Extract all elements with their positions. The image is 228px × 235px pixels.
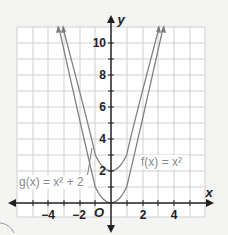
y-axis-down-arrow-icon xyxy=(107,225,115,233)
origin-label: O xyxy=(94,205,104,220)
y-tick-label: 8 xyxy=(99,68,106,82)
y-tick-label: 6 xyxy=(99,100,106,114)
x-tick-label: 2 xyxy=(140,208,147,222)
y-axis-up-arrow-icon xyxy=(107,15,115,23)
x-axis-right-arrow-icon xyxy=(206,199,214,207)
y-tick-label: 4 xyxy=(99,132,106,146)
x-axis-left-arrow-icon xyxy=(8,199,16,207)
x-tick-label: −4 xyxy=(41,208,55,222)
x-axis-label: x xyxy=(204,185,213,200)
y-axis-label: y xyxy=(116,12,125,27)
x-tick-label: 4 xyxy=(171,208,178,222)
decorative-arc xyxy=(0,223,14,233)
x-tick-label: −2 xyxy=(72,208,86,222)
graph-canvas: −4 −2 2 4 10 8 6 4 2 O x y f(x) = x² g(x… xyxy=(0,0,228,235)
y-tick-label: 2 xyxy=(99,164,106,178)
f-function-label: f(x) = x² xyxy=(141,155,182,169)
g-function-label: g(x) = x² + 2 xyxy=(19,175,84,189)
y-tick-label: 10 xyxy=(93,36,107,50)
